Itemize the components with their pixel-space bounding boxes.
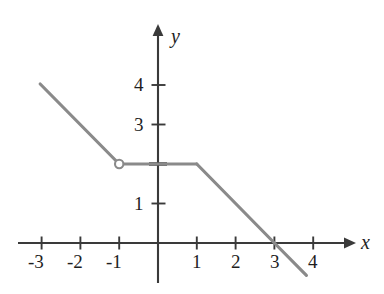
graph-figure: -3 -2 -1 1 2 3 4 1 3 4 x y xyxy=(0,0,384,294)
x-axis-label: x xyxy=(361,233,370,252)
x-tick-label-neg1: -1 xyxy=(106,252,122,271)
x-tick-label-2: 2 xyxy=(231,252,241,271)
x-tick-label-neg3: -3 xyxy=(28,252,44,271)
x-tick-label-3: 3 xyxy=(270,252,280,271)
x-tick-label-neg2: -2 xyxy=(67,252,83,271)
x-tick-label-4: 4 xyxy=(308,252,318,271)
y-tick-label-1: 1 xyxy=(134,194,144,213)
y-axis xyxy=(153,24,164,283)
curve-right-ray xyxy=(197,164,307,275)
x-tick-label-1: 1 xyxy=(192,252,202,271)
y-axis-label: y xyxy=(171,27,180,46)
y-tick-label-4: 4 xyxy=(134,75,144,94)
coordinate-plot xyxy=(0,0,384,294)
y-tick-label-3: 3 xyxy=(134,115,144,134)
open-circle-marker xyxy=(115,160,123,168)
curve-left-ray xyxy=(40,84,119,164)
x-axis xyxy=(18,238,356,249)
